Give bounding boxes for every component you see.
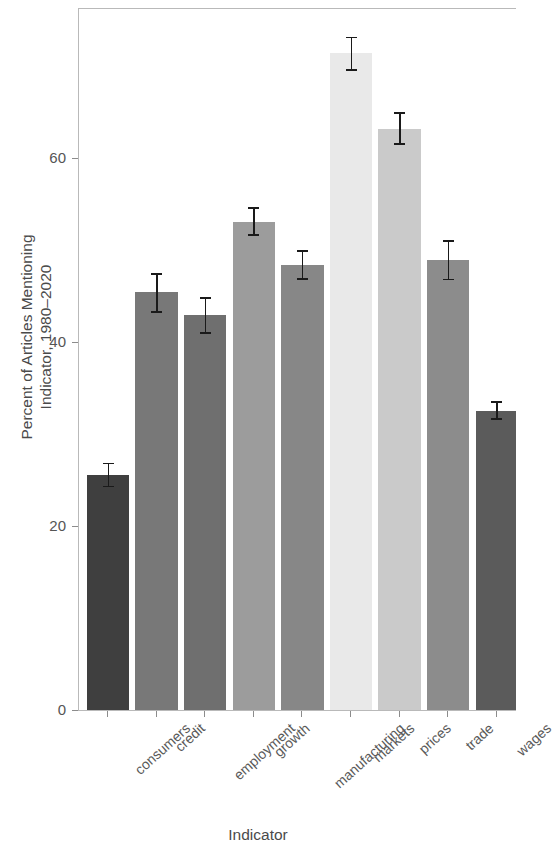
- error-bar-cap-top: [248, 207, 259, 209]
- error-bar-prices: [394, 112, 405, 145]
- x-tick-mark-employment: [204, 711, 205, 717]
- y-tick-label-60: 60: [18, 149, 66, 166]
- error-bar-cap-bottom: [103, 486, 114, 488]
- error-bar-stem: [351, 37, 353, 71]
- error-bar-cap-top: [491, 401, 502, 403]
- bar-wages: [476, 411, 516, 711]
- error-bar-stem: [108, 463, 110, 488]
- x-tick-mark-prices: [399, 711, 400, 717]
- error-bar-cap-top: [200, 297, 211, 299]
- error-bar-cap-top: [394, 112, 405, 114]
- error-bar-trade: [443, 240, 454, 280]
- error-bar-growth: [248, 207, 259, 236]
- error-bar-cap-top: [346, 37, 357, 39]
- plot-panel: [78, 8, 516, 711]
- error-bar-credit: [151, 273, 162, 313]
- x-tick-label-wages: wages: [513, 720, 554, 759]
- bar-growth: [233, 222, 276, 711]
- error-bar-cap-bottom: [297, 278, 308, 280]
- bar-employment: [184, 315, 227, 711]
- error-bar-stem: [253, 207, 255, 236]
- bar-markets: [330, 53, 373, 711]
- y-tick-mark-20: [72, 526, 78, 527]
- error-bar-cap-top: [297, 250, 308, 252]
- error-bar-cap-bottom: [346, 69, 357, 71]
- x-tick-mark-markets: [350, 711, 351, 717]
- bar-trade: [427, 260, 470, 711]
- error-bar-cap-bottom: [200, 332, 211, 334]
- y-tick-label-0: 0: [18, 701, 66, 718]
- x-tick-label-prices: prices: [415, 720, 453, 757]
- error-bar-consumers: [103, 463, 114, 488]
- error-bar-stem: [156, 273, 158, 313]
- error-bar-cap-bottom: [151, 311, 162, 313]
- x-tick-mark-growth: [253, 711, 254, 717]
- bar-prices: [378, 129, 421, 711]
- x-tick-label-trade: trade: [462, 720, 496, 753]
- y-tick-mark-0: [72, 710, 78, 711]
- error-bar-cap-bottom: [443, 279, 454, 281]
- x-tick-mark-wages: [496, 711, 497, 717]
- plot-area: [79, 9, 516, 710]
- error-bar-stem: [448, 240, 450, 280]
- error-bar-markets: [346, 37, 357, 71]
- error-bar-wages: [491, 401, 502, 420]
- error-bar-cap-bottom: [491, 418, 502, 420]
- error-bar-stem: [302, 250, 304, 279]
- y-tick-mark-40: [72, 342, 78, 343]
- x-tick-mark-trade: [447, 711, 448, 717]
- x-tick-mark-consumers: [107, 711, 108, 717]
- y-tick-label-40: 40: [18, 333, 66, 350]
- x-tick-mark-credit: [156, 711, 157, 717]
- error-bar-manufacturing: [297, 250, 308, 279]
- error-bar-cap-top: [443, 240, 454, 242]
- bar-manufacturing: [281, 265, 324, 711]
- y-tick-mark-60: [72, 158, 78, 159]
- x-axis-title: Indicator: [0, 826, 516, 844]
- error-bar-cap-bottom: [248, 234, 259, 236]
- error-bar-stem: [496, 401, 498, 420]
- y-tick-label-20: 20: [18, 517, 66, 534]
- error-bar-stem: [205, 297, 207, 334]
- error-bar-cap-bottom: [394, 143, 405, 145]
- error-bar-cap-top: [103, 463, 114, 465]
- x-tick-mark-manufacturing: [301, 711, 302, 717]
- error-bar-cap-top: [151, 273, 162, 275]
- error-bar-employment: [200, 297, 211, 334]
- bar-consumers: [87, 475, 130, 711]
- error-bar-stem: [399, 112, 401, 145]
- bar-credit: [135, 292, 178, 711]
